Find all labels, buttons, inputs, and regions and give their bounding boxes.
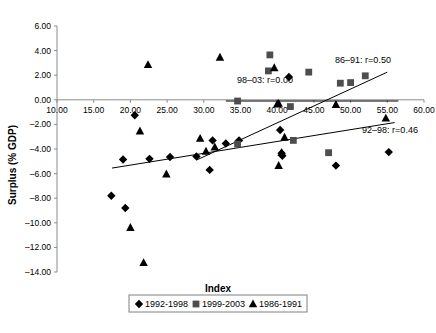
legend-label: 1986-1991 [259, 299, 302, 309]
annotation-92-98: 92–98: r=0.46 [362, 125, 418, 135]
point-marker [385, 148, 393, 156]
y-tick-label: –6.00 [30, 169, 52, 179]
point-marker [287, 103, 294, 110]
point-marker [266, 52, 273, 59]
point-marker [208, 136, 216, 144]
point-marker [196, 134, 204, 142]
trend-line-92-98 [112, 123, 395, 169]
scatter-chart: 6.004.002.000.00–2.00–4.00–6.00–8.00–10.… [0, 0, 436, 333]
y-tick-label: 6.00 [34, 21, 51, 31]
point-marker [277, 148, 285, 156]
trend-lines [112, 72, 398, 168]
y-tick-label: –4.00 [30, 144, 52, 154]
x-tick-label: 10.00 [46, 105, 68, 115]
point-marker [382, 114, 390, 122]
point-marker [162, 170, 170, 178]
x-tick-label: 30.00 [193, 105, 215, 115]
y-tick-label: 0.00 [34, 95, 51, 105]
point-marker [136, 127, 144, 135]
y-tick-label: –10.00 [25, 218, 51, 228]
point-marker [270, 63, 278, 71]
point-marker [107, 192, 115, 200]
series-1992-1998 [107, 73, 393, 212]
point-marker [347, 79, 354, 86]
y-tick-label: 2.00 [34, 70, 51, 80]
x-axis-title: Index [205, 283, 232, 294]
point-marker [305, 69, 312, 76]
point-marker [234, 98, 241, 105]
point-marker [119, 155, 127, 163]
point-marker [166, 153, 174, 161]
point-marker [202, 147, 210, 155]
point-marker [337, 80, 344, 87]
annotation-98-03: 98–03: r=0.00 [237, 75, 293, 85]
point-marker [121, 204, 129, 212]
point-marker [216, 53, 224, 61]
y-axis-title: Surplus (% GDP) [7, 125, 18, 205]
point-marker [139, 258, 147, 266]
point-marker [362, 72, 369, 79]
point-marker [290, 137, 297, 144]
point-marker [325, 149, 332, 156]
legend-label: 1999-2003 [202, 299, 245, 309]
y-tick-label: 4.00 [34, 46, 51, 56]
y-tick-label: –2.00 [30, 119, 52, 129]
x-tick-label: 15.00 [83, 105, 105, 115]
point-marker [234, 141, 241, 148]
y-tick-label: –12.00 [25, 242, 51, 252]
x-tick-label: 35.00 [230, 105, 252, 115]
series-1999-2003 [234, 52, 369, 157]
point-marker [222, 139, 230, 147]
point-marker [274, 161, 282, 169]
point-marker [192, 152, 200, 160]
x-tick-label: 60.00 [413, 105, 435, 115]
x-tick-label: 25.00 [156, 105, 178, 115]
x-tick-label: 55.00 [377, 105, 399, 115]
point-marker [332, 161, 340, 169]
x-tick-label: 20.00 [120, 105, 142, 115]
annotation-86-91: 86–91: r=0.50 [335, 55, 391, 65]
point-marker [144, 60, 152, 68]
y-tick-label: –14.00 [25, 267, 51, 277]
point-marker [276, 126, 284, 134]
chart-canvas: 6.004.002.000.00–2.00–4.00–6.00–8.00–10.… [0, 0, 436, 333]
chart-legend: 1992-19981999-20031986-1991 [129, 295, 307, 312]
point-marker [126, 223, 134, 231]
y-axis: 6.004.002.000.00–2.00–4.00–6.00–8.00–10.… [25, 21, 57, 277]
legend-marker-square [193, 301, 200, 308]
y-tick-label: –8.00 [30, 193, 52, 203]
point-marker [280, 133, 288, 141]
point-marker [205, 166, 213, 174]
legend-label: 1992-1998 [145, 299, 188, 309]
x-tick-label: 50.00 [340, 105, 362, 115]
